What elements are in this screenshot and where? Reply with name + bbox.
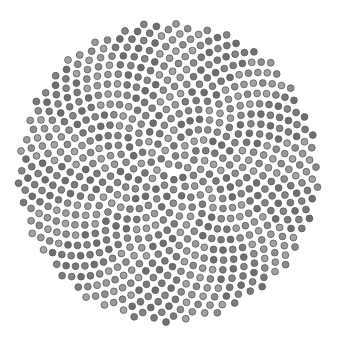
spiral-dot [231,83,238,90]
spiral-dot [92,113,99,120]
spiral-dot [204,98,211,105]
spiral-dot [92,293,99,300]
spiral-dot [199,265,206,272]
spiral-dot [149,105,156,112]
spiral-dot [282,261,289,268]
spiral-dot [114,81,121,88]
spiral-dot [235,93,242,100]
spiral-dot [28,217,35,224]
spiral-dot [197,166,204,173]
spiral-dot [281,242,288,249]
spiral-dot [68,252,75,259]
spiral-dot [189,204,196,211]
spiral-dot [276,114,283,121]
spiral-dot [66,127,73,134]
spiral-dot [168,115,175,122]
spiral-dot [229,246,236,253]
spiral-dot [282,252,289,259]
spiral-dot [136,287,143,294]
spiral-dot [238,190,245,197]
spiral-dot [102,165,109,172]
spiral-dot [191,228,198,235]
spiral-dot [171,176,178,183]
spiral-dot [239,60,246,67]
spiral-dot [197,274,204,281]
spiral-dot [38,116,45,123]
spiral-dot [181,142,188,149]
spiral-dot [173,277,180,284]
spiral-dot [207,302,214,309]
spiral-dot [87,137,94,144]
spiral-dot [119,284,126,291]
spiral-dot [214,34,221,41]
spiral-dot [119,296,126,303]
spiral-dot [62,220,69,227]
spiral-dot [88,194,95,201]
spiral-dot [96,249,103,256]
spiral-dot [264,69,271,76]
spiral-dot [183,221,190,228]
spiral-dot [208,214,215,221]
spiral-dot [223,293,230,300]
spiral-dot [93,240,100,247]
spiral-dot [64,155,71,162]
spiral-dot [158,203,165,210]
spiral-dot [222,87,229,94]
spiral-dot [156,72,163,79]
spiral-dot [142,268,149,275]
spiral-dot [82,166,89,173]
spiral-dot [57,149,64,156]
spiral-dot [107,122,114,129]
spiral-dot [210,246,217,253]
spiral-dot [192,147,199,154]
spiral-dot [130,165,137,172]
spiral-dot [99,179,106,186]
spiral-dot [160,240,167,247]
spiral-dot [100,45,107,52]
spiral-dot [214,225,221,232]
spiral-dot [35,170,42,177]
spiral-dot [127,244,134,251]
spiral-dot [259,80,266,87]
spiral-dot [227,236,234,243]
spiral-dot [138,244,145,251]
spiral-dot [223,226,230,233]
spiral-dot [240,254,247,261]
spiral-dot [272,92,279,99]
spiral-dot [155,298,162,305]
spiral-dot [49,249,56,256]
spiral-dot [245,157,252,164]
spiral-dot [209,266,216,273]
spiral-dot [93,211,100,218]
spiral-dot [76,173,83,180]
spiral-dot [223,133,230,140]
spiral-dot [173,21,180,28]
spiral-dot [223,42,230,49]
spiral-dot [39,143,46,150]
spiral-dot [256,100,263,107]
spiral-dot [141,55,148,62]
spiral-dot [46,108,53,115]
spiral-dot [23,136,30,143]
spiral-dot [217,110,224,117]
spiral-dot [201,255,208,262]
spiral-dot [72,211,79,218]
spiral-dot [266,133,273,140]
spiral-dot [221,65,228,72]
spiral-dot [214,129,221,136]
spiral-dot [249,278,256,285]
spiral-dot [143,225,150,232]
spiral-dot [231,139,238,146]
spiral-dot [133,226,140,233]
spiral-dot [231,300,238,307]
spiral-dot [120,113,127,120]
spiral-dot [184,25,191,32]
spiral-dot [39,187,46,194]
spiral-dot [292,172,299,179]
spiral-dot [64,200,71,207]
spiral-dot [115,241,122,248]
spiral-dot [164,77,171,84]
spiral-dot [198,67,205,74]
spiral-dot [128,267,135,274]
spiral-dot [123,159,130,166]
